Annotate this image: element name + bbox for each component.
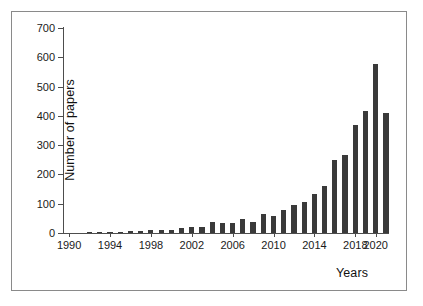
- bar: [169, 230, 174, 233]
- y-tick-label: 600: [37, 52, 55, 63]
- bar: [291, 205, 296, 233]
- bar: [332, 160, 337, 233]
- bar: [199, 227, 204, 233]
- plot-area: 0100200300400500600700 19901994199820022…: [63, 28, 388, 233]
- bar: [281, 210, 286, 233]
- x-tick-mark: [355, 233, 356, 237]
- bar: [189, 227, 194, 233]
- bar: [97, 232, 102, 233]
- x-axis-line: [63, 233, 389, 234]
- figure: 0100200300400500600700 19901994199820022…: [0, 0, 423, 306]
- x-tick-label: 2006: [220, 240, 244, 251]
- y-tick-label: 0: [49, 228, 55, 239]
- x-tick-label: 2002: [180, 240, 204, 251]
- x-tick-mark: [110, 233, 111, 237]
- bar: [118, 232, 123, 233]
- bar: [220, 223, 225, 233]
- x-tick-label: 2014: [302, 240, 326, 251]
- bar: [138, 231, 143, 233]
- bar: [240, 219, 245, 233]
- x-tick-mark: [274, 233, 275, 237]
- bar: [383, 113, 388, 233]
- bar: [159, 230, 164, 233]
- bar: [250, 222, 255, 233]
- bar: [261, 214, 266, 233]
- bar: [148, 230, 153, 233]
- bar: [363, 111, 368, 233]
- x-tick-label: 1994: [98, 240, 122, 251]
- bar: [302, 202, 307, 233]
- x-tick-mark: [376, 233, 377, 237]
- bar: [87, 232, 92, 233]
- y-axis-title: Number of papers: [63, 79, 77, 181]
- y-tick-label: 200: [37, 169, 55, 180]
- bar: [230, 223, 235, 233]
- x-tick-mark: [192, 233, 193, 237]
- bar: [353, 125, 358, 233]
- bar: [179, 228, 184, 233]
- y-tick-label: 400: [37, 110, 55, 121]
- x-tick-mark: [69, 233, 70, 237]
- bar: [210, 222, 215, 233]
- y-tick-mark: [58, 57, 63, 58]
- y-tick-mark: [58, 233, 63, 234]
- bar: [322, 186, 327, 233]
- y-tick-label: 100: [37, 198, 55, 209]
- bar: [128, 231, 133, 233]
- bar: [107, 232, 112, 233]
- x-tick-mark: [151, 233, 152, 237]
- x-tick-mark: [233, 233, 234, 237]
- bar: [373, 64, 378, 233]
- x-tick-label: 2010: [261, 240, 285, 251]
- y-tick-label: 500: [37, 81, 55, 92]
- bar: [271, 216, 276, 233]
- y-tick-mark: [58, 204, 63, 205]
- x-tick-mark: [314, 233, 315, 237]
- y-tick-label: 700: [37, 23, 55, 34]
- bar: [342, 155, 347, 233]
- x-tick-label: 1990: [57, 240, 81, 251]
- y-tick-mark: [58, 28, 63, 29]
- x-axis-title: Years: [336, 266, 368, 280]
- x-tick-label: 1998: [139, 240, 163, 251]
- y-tick-label: 300: [37, 140, 55, 151]
- bar: [312, 194, 317, 233]
- x-tick-label: 2020: [363, 240, 387, 251]
